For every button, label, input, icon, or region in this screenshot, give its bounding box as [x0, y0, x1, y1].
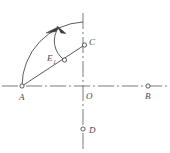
line-a-to-c [22, 45, 85, 86]
point-label-e1-subscript: 1 [53, 59, 56, 65]
point-label-o: O [86, 91, 93, 101]
point-label-e1: E [46, 53, 53, 63]
point-marker-e1 [62, 58, 66, 62]
point-marker-d [81, 127, 85, 131]
point-marker-b [146, 84, 150, 88]
figure-container: A O B C D E 1 [0, 0, 170, 153]
point-label-c: C [89, 37, 96, 47]
point-label-a: A [18, 92, 25, 102]
inner-arc-arrowhead [57, 26, 66, 34]
point-label-b: B [145, 91, 151, 101]
technical-diagram: A O B C D E 1 [0, 0, 170, 153]
point-marker-a [20, 84, 24, 88]
point-label-d: D [88, 125, 96, 135]
point-marker-c [82, 43, 86, 47]
